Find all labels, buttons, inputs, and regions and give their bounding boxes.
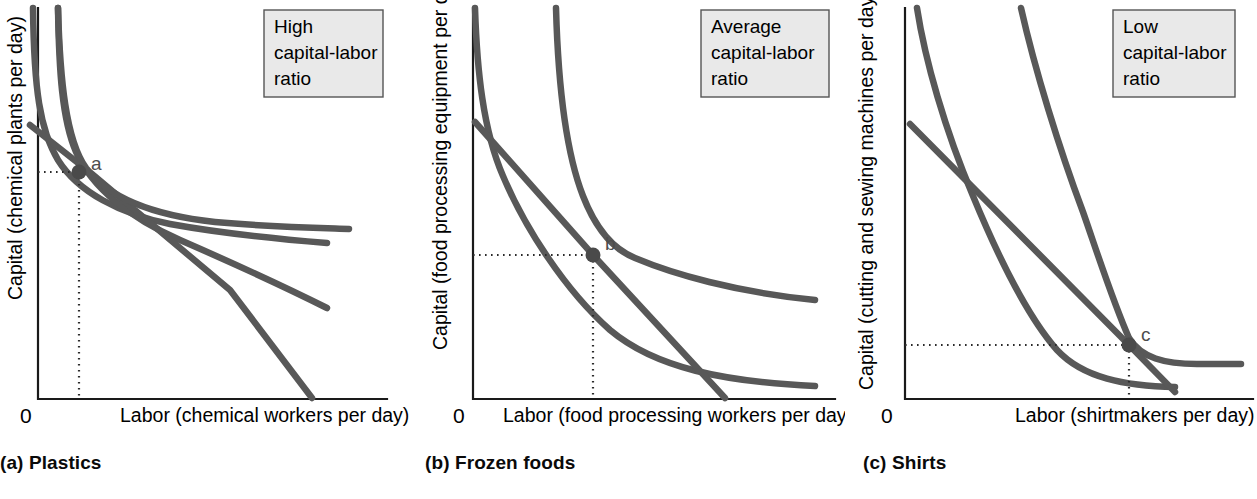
tangency-point-c [1122,338,1137,353]
isocost-line-b [475,122,725,398]
legend-line1-c: Low [1123,16,1158,37]
chart-shirts: Capital (cutting and sewing machines per… [845,0,1257,450]
x-axis-title-c: Labor (shirtmakers per day) [1015,404,1255,426]
point-label-c: c [1141,324,1151,345]
tangency-point-a [72,165,87,180]
legend-line2-a: capital-labor [274,42,378,63]
y-axis-title-a: Capital (chemical plants per day) [4,16,26,300]
caption-plastics: (a) Plastics [0,452,102,474]
panel-shirts: Capital (cutting and sewing machines per… [845,0,1257,499]
origin-label-a: 0 [20,404,32,427]
origin-label-c: 0 [881,404,893,427]
tangency-point-b [586,248,601,263]
legend-line1-b: Average [711,16,781,37]
caption-shirts: (c) Shirts [863,452,946,474]
origin-label-b: 0 [453,404,465,427]
figure-capital-labor-ratios: Capital (chemical plants per day) a 0 L [0,0,1257,499]
panel-plastics: Capital (chemical plants per day) a 0 L [0,0,420,499]
legend-line3-b: ratio [711,68,748,89]
point-label-a: a [91,153,102,174]
panel-frozen-foods: Capital (food processing equipment per d… [425,0,845,499]
y-axis-title-c: Capital (cutting and sewing machines per… [855,0,877,390]
x-axis-title-a: Labor (chemical workers per day) [120,404,409,426]
isocost-line-a [30,125,312,398]
y-axis-title-b: Capital (food processing equipment per d… [429,0,451,350]
legend-line1-a: High [274,16,313,37]
caption-frozen-foods: (b) Frozen foods [425,452,575,474]
x-axis-title-b: Labor (food processing workers per day) [503,404,845,426]
chart-plastics: Capital (chemical plants per day) a 0 L [0,0,420,450]
chart-frozen-foods: Capital (food processing equipment per d… [425,0,845,450]
isocost-line-c [910,124,1175,392]
legend-line3-a: ratio [274,68,311,89]
legend-line2-c: capital-labor [1123,42,1227,63]
point-label-b: b [605,233,616,254]
legend-line2-b: capital-labor [711,42,815,63]
legend-line3-c: ratio [1123,68,1160,89]
